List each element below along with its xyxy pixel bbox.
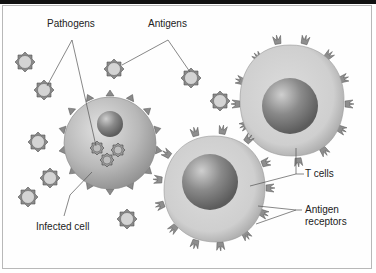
antigen-receptors-label-line1: Antigen: [305, 204, 339, 216]
pathogens-leader: [47, 40, 72, 86]
internal-pathogen: [100, 153, 114, 167]
t-cells-label: T cells: [305, 168, 334, 180]
infected-cell-body: [64, 97, 156, 189]
t-cell-top: [231, 34, 354, 167]
antigens-label: Antigens: [148, 18, 187, 30]
t-cell-bottom-nucleus: [182, 154, 238, 210]
internal-pathogen: [111, 143, 125, 157]
antigens-leader: [168, 40, 190, 72]
receptors-leader: [258, 206, 302, 210]
antigens-leader: [122, 40, 168, 65]
antigen-receptors-label-line2: receptors: [305, 216, 347, 228]
t-cell-top-nucleus: [262, 78, 318, 134]
infected-cell-label: Infected cell: [36, 221, 89, 233]
infected-cell: [58, 90, 162, 195]
internal-pathogen: [90, 141, 104, 155]
pathogens-label: Pathogens: [47, 18, 95, 30]
infected-cell-nucleus: [97, 111, 123, 137]
